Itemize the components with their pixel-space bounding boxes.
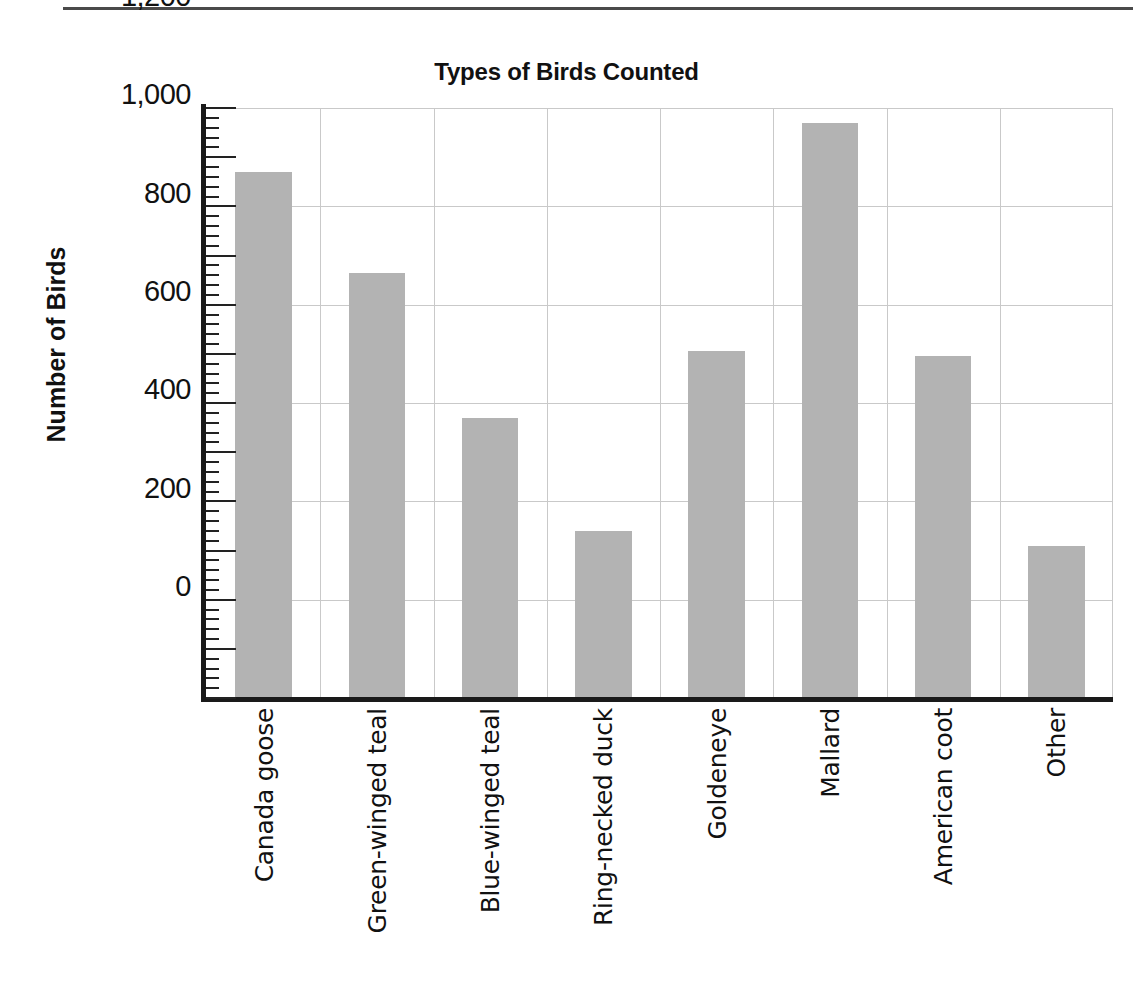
x-axis-category-labels: Canada gooseGreen-winged tealBlue-winged…	[207, 708, 1113, 958]
bar	[802, 123, 859, 698]
y-axis-tick-label: 0	[41, 570, 191, 603]
x-axis-category-label: Goldeneye	[702, 708, 731, 840]
x-axis-label-cell: American coot	[887, 708, 1000, 958]
y-axis-tick-label: 400	[41, 373, 191, 406]
y-axis-tick-label: 200	[41, 472, 191, 505]
header-divider	[63, 7, 1133, 10]
x-axis-category-label: Other	[1042, 708, 1071, 777]
bar	[462, 418, 519, 698]
bar	[688, 351, 745, 698]
x-axis-category-label: Mallard	[815, 708, 844, 798]
x-axis-line	[201, 697, 1113, 702]
y-axis-line	[201, 104, 206, 702]
x-axis-label-cell: Other	[1000, 708, 1113, 958]
bar	[349, 273, 406, 698]
y-axis-tick-label: 600	[41, 275, 191, 308]
bar	[235, 172, 292, 698]
x-axis-label-cell: Blue-winged teal	[434, 708, 547, 958]
x-axis-category-label: Green-winged teal	[362, 708, 391, 933]
plot-area	[207, 108, 1113, 698]
x-axis-label-cell: Green-winged teal	[320, 708, 433, 958]
bar	[915, 356, 972, 698]
x-axis-category-label: Blue-winged teal	[476, 708, 505, 913]
x-axis-label-cell: Goldeneye	[660, 708, 773, 958]
bar	[575, 531, 632, 698]
x-axis-label-cell: Ring-necked duck	[547, 708, 660, 958]
bar	[1028, 546, 1085, 698]
x-axis-category-label: American coot	[929, 708, 958, 885]
bar-series	[207, 108, 1113, 698]
x-axis-label-cell: Mallard	[773, 708, 886, 958]
x-axis-category-label: Canada goose	[249, 708, 278, 882]
y-axis-tick-label: 1,200	[41, 0, 191, 13]
y-axis-tick-label: 1,000	[41, 78, 191, 111]
chart-page: Types of Birds Counted Number of Birds 0…	[0, 0, 1133, 1007]
x-axis-category-label: Ring-necked duck	[589, 708, 618, 926]
y-axis-tick-label: 800	[41, 177, 191, 210]
x-axis-label-cell: Canada goose	[207, 708, 320, 958]
y-axis-tick-labels: 02004006008001,0001,200	[31, 0, 191, 590]
